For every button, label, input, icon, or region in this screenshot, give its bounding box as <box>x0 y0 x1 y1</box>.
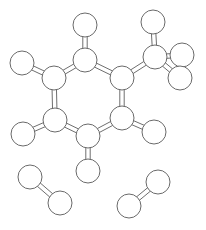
atom-hm2-hydrogen <box>170 43 194 67</box>
atom-dl1-atom <box>18 165 42 189</box>
atom-h1-hydrogen <box>73 13 97 37</box>
bond-cm-hm1-single-edge-b <box>151 33 152 46</box>
bond-c2-cm-single-edge-b <box>130 61 145 70</box>
bond-c1-c2-single-edge-a <box>94 67 112 76</box>
atom-c6-ring-carbon <box>42 66 66 90</box>
bond-cm-hm3-single-edge-b <box>165 62 173 69</box>
bond-dr1-dr2-double-b <box>136 187 148 197</box>
atom-hm3-hydrogen <box>168 66 192 90</box>
bond-cm-hm1-single-edge-a <box>156 33 157 46</box>
atom-h4-hydrogen <box>76 159 100 183</box>
bond-c3-h3-single-edge-b <box>133 120 145 125</box>
atom-c2-ring-carbon <box>110 66 134 90</box>
bond-dl1-dl2-double-a <box>37 186 51 198</box>
bond-c3-h3-single-edge-a <box>131 124 143 129</box>
atom-c5-ring-carbon <box>43 108 67 132</box>
atom-c4-ring-carbon <box>76 124 100 148</box>
atom-c1-ring-carbon <box>73 48 97 72</box>
atom-h6-hydrogen <box>10 51 34 75</box>
atom-dr1-atom <box>117 194 141 218</box>
bond-c5-h5-single-edge-a <box>32 122 44 127</box>
atom-h5-hydrogen <box>11 122 35 146</box>
bond-c6-h6-single-edge-b <box>31 70 43 76</box>
bond-c2-cm-single-edge-a <box>132 65 147 74</box>
atom-h3-hydrogen <box>142 120 166 144</box>
bond-dr1-dr2-double-a <box>139 191 151 201</box>
molecule-canvas <box>0 0 206 230</box>
molecular-diagram <box>0 0 206 230</box>
atom-c3-ring-carbon <box>110 106 134 130</box>
bond-c6-h6-single-edge-a <box>33 66 45 72</box>
atom-dr2-atom <box>146 170 170 194</box>
atom-cm-methyl-carbon <box>143 45 167 69</box>
atoms-layer <box>10 10 194 218</box>
bond-dl1-dl2-double-b <box>40 182 54 194</box>
atom-hm1-hydrogen <box>141 10 165 34</box>
atom-dl2-atom <box>48 191 72 215</box>
bond-c5-h5-single-edge-b <box>34 126 46 131</box>
bond-cm-hm3-single-edge-a <box>162 66 170 73</box>
bond-c1-c2-single-edge-b <box>96 63 114 72</box>
